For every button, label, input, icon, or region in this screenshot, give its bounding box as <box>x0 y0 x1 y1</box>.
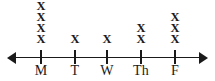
category-column-friday: XXX F <box>155 0 195 81</box>
axis-arrow-left-icon <box>7 52 16 64</box>
axis-arrow-right-icon <box>199 52 208 64</box>
tick-mark-monday <box>40 50 41 64</box>
data-mark-x: X <box>170 34 179 45</box>
tick-mark-friday <box>174 50 175 64</box>
tick-mark-wednesday <box>106 50 107 64</box>
data-mark-x: X <box>70 34 79 45</box>
data-mark-x: X <box>136 34 145 45</box>
dot-plot-figure: XXXX M X T X W XX Th XXX F <box>0 0 215 81</box>
category-label-friday: F <box>155 63 195 79</box>
tick-mark-thursday <box>140 50 141 64</box>
data-mark-x: X <box>36 34 45 45</box>
mark-stack-friday: XXX <box>155 12 195 45</box>
data-mark-x: X <box>102 34 111 45</box>
tick-mark-tuesday <box>74 50 75 64</box>
